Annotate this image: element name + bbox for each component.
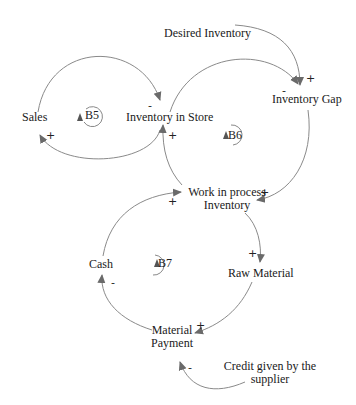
sign-gap-to-wip: + [260, 187, 269, 198]
material-payment-line-2: Payment [150, 337, 194, 350]
node-raw-material: Raw Material [228, 267, 294, 280]
node-sales: Sales [22, 111, 47, 124]
node-credit-given-by-supplier: Credit given by the supplier [222, 360, 318, 386]
node-material-payment: Material Payment [150, 324, 194, 350]
sign-sales-to-inventory: - [148, 100, 152, 111]
edge-inventory-to-sales [40, 130, 160, 159]
edge-payment-to-cash [102, 275, 152, 330]
loop-label-b5: B5 [85, 108, 99, 123]
b5-loop-arrow-icon [77, 113, 83, 121]
sign-raw-to-payment: + [196, 320, 205, 331]
wip-line-2: Inventory [184, 199, 270, 212]
sign-inventory-to-sales: + [46, 130, 55, 141]
edge-sales-to-inventory-in-store [38, 56, 160, 112]
node-inventory-in-store: Inventory in Store [126, 111, 213, 124]
causal-loop-diagram: Desired Inventory Sales Inventory in Sto… [0, 0, 356, 405]
credit-line-2: supplier [222, 373, 318, 386]
node-desired-inventory: Desired Inventory [164, 27, 251, 40]
node-work-in-process-inventory: Work in process Inventory [184, 186, 270, 212]
sign-payment-to-cash: - [111, 277, 115, 288]
loop-label-b6: B6 [228, 128, 242, 143]
sign-desired-to-gap: + [306, 73, 315, 84]
sign-cash-to-wip: + [168, 196, 177, 207]
sign-credit-to-payment: - [188, 362, 192, 373]
sign-inventory-to-gap: - [282, 85, 286, 96]
node-cash: Cash [89, 258, 113, 271]
loop-label-b7: B7 [158, 256, 172, 271]
sign-wip-to-inventory: + [168, 130, 177, 141]
sign-wip-to-raw: + [248, 248, 257, 259]
